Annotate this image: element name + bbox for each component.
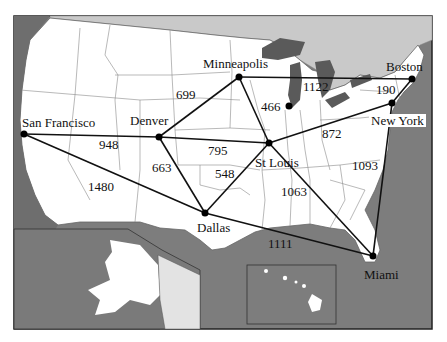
weight-dallas-miami: 1111: [268, 237, 293, 250]
label-st-louis: St Louis: [255, 156, 299, 169]
weight-minneapolis-stlouis: 466: [261, 100, 281, 113]
node-boston: [409, 76, 416, 83]
weight-newyork-miami: 1093: [352, 159, 378, 172]
weight-sf-denver: 948: [99, 138, 119, 151]
node-st-louis: [266, 140, 273, 147]
node-miami: [370, 253, 377, 260]
weight-denver-stlouis: 795: [208, 144, 228, 157]
label-dallas: Dallas: [197, 221, 230, 234]
node-dallas: [202, 210, 209, 217]
node-denver: [156, 134, 163, 141]
node-chicago: [286, 103, 293, 110]
weight-sf-dallas: 1480: [88, 180, 114, 193]
weight-boston-newyork: 190: [376, 83, 396, 96]
node-san-francisco: [21, 131, 28, 138]
weight-minneapolis-boston: 1122: [303, 80, 329, 93]
label-boston: Boston: [386, 60, 423, 73]
weight-stlouis-dallas: 548: [215, 167, 235, 180]
weight-stlouis-newyork: 872: [322, 127, 342, 140]
node-minneapolis: [236, 74, 243, 81]
label-minneapolis: Minneapolis: [203, 57, 268, 70]
weight-denver-dallas: 663: [152, 161, 172, 174]
weight-denver-minneapolis: 699: [176, 88, 196, 101]
node-new-york: [389, 100, 396, 107]
weight-stlouis-miami: 1063: [281, 185, 307, 198]
label-san-francisco: San Francisco: [22, 116, 95, 129]
label-new-york: New York: [369, 114, 426, 127]
label-denver: Denver: [130, 114, 168, 127]
label-miami: Miami: [364, 268, 399, 281]
